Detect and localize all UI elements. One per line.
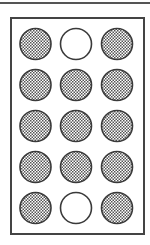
filled-circle [61, 152, 92, 183]
filled-circle [102, 193, 133, 224]
filled-circle [20, 152, 51, 183]
filled-circle [102, 111, 133, 142]
filled-circle [20, 70, 51, 101]
circle-grid [0, 0, 150, 245]
filled-circle [20, 111, 51, 142]
filled-circle [61, 70, 92, 101]
filled-circle [20, 29, 51, 60]
filled-circle [102, 152, 133, 183]
filled-circle [102, 70, 133, 101]
filled-circle [102, 29, 133, 60]
empty-circle [61, 29, 92, 60]
empty-circle [61, 193, 92, 224]
filled-circle [61, 111, 92, 142]
filled-circle [20, 193, 51, 224]
